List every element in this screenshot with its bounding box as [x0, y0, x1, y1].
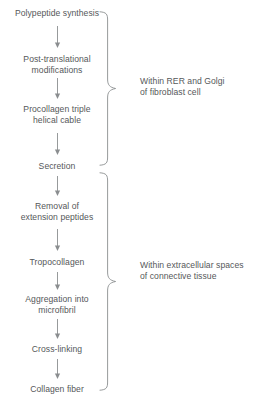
flow-step-secretion: Secretion	[0, 161, 114, 172]
flow-step-collagen-fiber: Collagen fiber	[0, 384, 114, 395]
flow-step-procollagen-triple-helical-cable: Procollagen triple helical cable	[0, 104, 114, 125]
flow-step-aggregation-into-microfibril: Aggregation into microfibril	[0, 294, 114, 315]
flow-step-removal-of-extension-peptides: Removal of extension peptides	[0, 201, 114, 222]
flow-step-polypeptide-synthesis: Polypeptide synthesis	[0, 8, 114, 19]
collagen-synthesis-flowchart: Polypeptide synthesis Post-translational…	[0, 0, 253, 407]
group-label-extracellular: Within extracellular spaces of connectiv…	[140, 260, 244, 283]
flow-step-cross-linking: Cross-linking	[0, 344, 114, 355]
group-label-rer-golgi: Within RER and Golgi of fibroblast cell	[140, 76, 225, 99]
group-brace-rer-golgi	[98, 11, 118, 166]
flow-step-tropocollagen: Tropocollagen	[0, 257, 114, 268]
group-brace-extracellular	[98, 172, 118, 391]
flow-step-post-translational-modifications: Post-translational modifications	[0, 54, 114, 75]
